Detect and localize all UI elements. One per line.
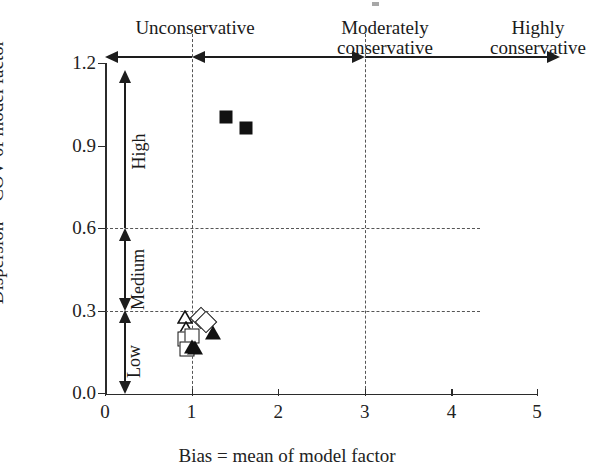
x-tick-label-2: 2 (273, 401, 283, 423)
arrowhead-down-icon (119, 381, 131, 394)
data-point-filled-triangle (205, 326, 221, 340)
band-label-low: Low (124, 345, 145, 378)
x-tick-label-1: 1 (187, 401, 197, 423)
y-tick-label-00: 0.0 (50, 382, 96, 404)
y-axis-title: Dispersion = COV 0f model factor (0, 40, 8, 304)
gridline-horizontal-y06 (105, 228, 480, 229)
arrow-highly-conservative (365, 51, 560, 63)
band-label-unconservative: Unconservative (100, 18, 290, 38)
x-tick-4 (451, 389, 452, 396)
x-tick-5 (537, 389, 538, 396)
x-tick-3 (365, 389, 366, 396)
arrow-shaft (116, 56, 192, 58)
band-label-highly-line1: Highly (463, 18, 590, 38)
x-tick-label-3: 3 (360, 401, 370, 423)
arrow-unconservative (105, 51, 192, 63)
gridline-vertical-x3 (365, 29, 366, 394)
x-tick-2 (278, 389, 279, 396)
arrow-shaft (365, 56, 549, 58)
y-tick-label-06: 0.6 (50, 217, 96, 239)
data-point-filled-square (220, 111, 233, 124)
data-point-filled-triangle (187, 340, 203, 354)
left-annotation-band: High Medium Low (105, 63, 151, 395)
y-tick-label-09: 0.9 (50, 135, 96, 157)
x-tick-label-0: 0 (100, 401, 110, 423)
x-tick-1 (192, 389, 193, 396)
x-axis-line (105, 394, 538, 396)
arrowhead-right-icon (547, 51, 560, 63)
data-point-filled-square (240, 122, 253, 135)
top-annotation-band: Unconservative Moderately conservative H… (105, 18, 560, 64)
arrow-shaft (124, 239, 126, 300)
arrow-shaft (124, 81, 126, 228)
x-axis-title: Bias = mean of model factor (0, 445, 574, 467)
arrow-moderately-conservative (192, 51, 365, 63)
arrow-shaft (203, 56, 354, 58)
y-tick-label-12: 1.2 (50, 52, 96, 74)
band-label-high: High (129, 134, 150, 170)
x-tick-label-4: 4 (447, 401, 457, 423)
x-tick-label-5: 5 (532, 401, 542, 423)
band-label-moderately-line1: Moderately (290, 18, 480, 38)
scan-artifact-speck (372, 2, 379, 6)
plot-area (105, 63, 538, 395)
band-label-medium: Medium (128, 249, 149, 310)
y-tick-label-03: 0.3 (50, 300, 96, 322)
gridline-horizontal-y03 (105, 311, 480, 312)
arrowhead-right-icon (352, 51, 365, 63)
